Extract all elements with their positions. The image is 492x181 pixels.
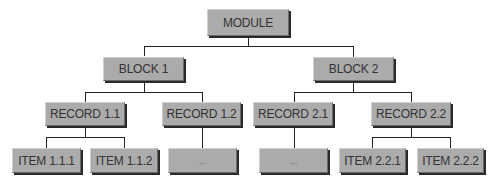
connector [202, 126, 203, 148]
connector [46, 137, 125, 138]
connector [85, 92, 86, 102]
connector [372, 137, 451, 138]
node-item-1-2-more[interactable]: ... [168, 148, 237, 173]
connector [202, 92, 203, 102]
node-item-2-2-1[interactable]: ITEM 2.2.1 [339, 148, 406, 173]
connector [353, 81, 354, 92]
connector [144, 81, 145, 92]
connector [85, 92, 203, 93]
connector [124, 137, 125, 148]
connector [353, 46, 354, 57]
connector [294, 92, 412, 93]
node-record-2-1[interactable]: RECORD 2.1 [253, 102, 333, 126]
node-module[interactable]: MODULE [207, 9, 289, 36]
connector [85, 126, 86, 137]
node-item-2-2-2[interactable]: ITEM 2.2.2 [417, 148, 484, 173]
node-item-2-1-more[interactable]: ... [259, 148, 328, 173]
connector [450, 137, 451, 148]
node-item-1-1-2[interactable]: ITEM 1.1.2 [90, 148, 158, 173]
connector [294, 92, 295, 102]
connector [411, 126, 412, 137]
connector [372, 137, 373, 148]
node-block-1[interactable]: BLOCK 1 [103, 57, 184, 81]
node-record-1-1[interactable]: RECORD 1.1 [45, 102, 125, 126]
connector [144, 46, 145, 56]
connector [294, 126, 295, 148]
hierarchy-diagram: MODULE BLOCK 1 BLOCK 2 RECORD 1.1 RECORD… [0, 0, 492, 181]
node-block-2[interactable]: BLOCK 2 [313, 57, 394, 81]
node-record-2-2[interactable]: RECORD 2.2 [371, 102, 451, 126]
connector [46, 137, 47, 148]
connector [411, 92, 412, 102]
node-record-1-2[interactable]: RECORD 1.2 [162, 102, 241, 126]
connector [248, 36, 249, 46]
node-item-1-1-1[interactable]: ITEM 1.1.1 [12, 148, 81, 173]
connector [144, 46, 354, 47]
